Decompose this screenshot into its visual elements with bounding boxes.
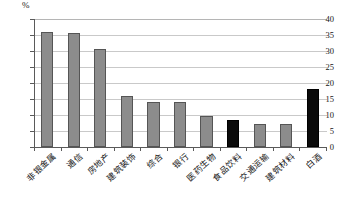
bar[interactable] — [174, 102, 186, 147]
bar-chart: % 0510152025303540 非银金属通信房地产建筑装饰综合银行医药生物… — [0, 0, 338, 200]
bar[interactable] — [68, 33, 80, 147]
x-axis-tick-mark — [326, 147, 327, 151]
bar[interactable] — [307, 89, 319, 147]
bar[interactable] — [147, 102, 159, 147]
bar-slot — [246, 19, 273, 147]
x-axis-tick-label: 综合 — [143, 150, 164, 171]
bar-slot — [273, 19, 300, 147]
x-axis-tick-mark — [140, 147, 141, 151]
x-axis-tick-label: 银行 — [170, 150, 191, 171]
bar-slot — [87, 19, 114, 147]
x-axis-tick-label: 非银金属 — [24, 150, 59, 183]
bar-slot — [220, 19, 247, 147]
bar[interactable] — [280, 124, 292, 147]
x-axis-tick-mark — [299, 147, 300, 151]
bar[interactable] — [254, 124, 266, 147]
y-axis-unit-label: % — [22, 0, 30, 10]
x-axis-tick-label: 白酒 — [303, 150, 324, 171]
x-axis-tick-mark — [220, 147, 221, 151]
x-axis-tick-mark — [87, 147, 88, 151]
x-axis-tick-mark — [61, 147, 62, 151]
x-axis-tick-mark — [34, 147, 35, 151]
bar-slot — [299, 19, 326, 147]
bar-slot — [140, 19, 167, 147]
x-axis-tick-mark — [193, 147, 194, 151]
bar-slot — [114, 19, 141, 147]
bar[interactable] — [200, 116, 212, 147]
bar[interactable] — [41, 32, 53, 147]
bar-slot — [193, 19, 220, 147]
bar-slot — [61, 19, 88, 147]
bar-slot — [34, 19, 61, 147]
bar[interactable] — [227, 120, 239, 147]
bar-slot — [167, 19, 194, 147]
bar[interactable] — [94, 49, 106, 147]
x-axis-tick-label: 通信 — [64, 150, 85, 171]
x-axis-tick-mark — [273, 147, 274, 151]
bar[interactable] — [121, 96, 133, 147]
x-axis-tick-mark — [246, 147, 247, 151]
bar-series — [34, 19, 326, 147]
x-axis-tick-mark — [167, 147, 168, 151]
x-axis-tick-mark — [114, 147, 115, 151]
